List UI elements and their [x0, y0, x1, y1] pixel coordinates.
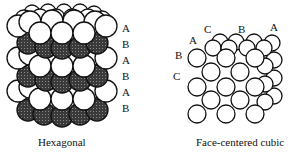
fcc-layer-label: B	[238, 24, 245, 35]
hex-layer-label: A	[122, 23, 130, 34]
hex-layer-label: A	[122, 87, 130, 98]
fcc-front-face	[188, 49, 264, 123]
hexagonal-structure	[7, 4, 117, 127]
hex-layer-label: B	[122, 39, 129, 50]
hex-layer-label: B	[122, 103, 129, 114]
fcc-layer-label: C	[204, 24, 211, 35]
fcc-caption: Face-centered cubic	[196, 136, 284, 148]
crystal-packing-figure: A B A B A B C B A A B C Hexagonal Face-c…	[0, 0, 291, 154]
fcc-structure	[188, 34, 282, 123]
fcc-layer-label: B	[175, 50, 182, 61]
hex-layer-label: B	[122, 71, 129, 82]
hex-layer-label: A	[122, 55, 130, 66]
sphere-diagrams	[0, 0, 291, 154]
fcc-layer-label: A	[189, 35, 197, 46]
hexagonal-caption: Hexagonal	[38, 136, 86, 148]
fcc-layer-label: A	[270, 22, 278, 33]
fcc-layer-label: C	[173, 71, 180, 82]
